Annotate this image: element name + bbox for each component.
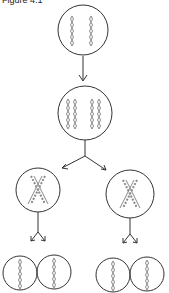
- chromosome: [74, 99, 77, 129]
- chromosome: [90, 16, 93, 46]
- chromosome: [71, 16, 74, 46]
- chromosome: [19, 259, 22, 289]
- gamete-2: [37, 255, 71, 289]
- arrow-down-icon: [79, 56, 87, 81]
- chromosome: [112, 261, 115, 291]
- meiosis-diagram: [0, 0, 169, 293]
- gamete-3: [96, 258, 130, 292]
- meiosis-1-left: [16, 168, 60, 212]
- split-arrow-icon: [123, 234, 137, 243]
- split-arrow-icon: [62, 140, 106, 170]
- chromosome: [67, 99, 70, 129]
- chromosome: [98, 99, 101, 129]
- chromosome: [53, 258, 56, 288]
- chromosome: [91, 99, 94, 129]
- parent-cell: [58, 5, 108, 55]
- split-arrow-icon: [31, 232, 45, 241]
- gamete-4: [130, 257, 164, 291]
- replicated-cell: [58, 86, 112, 140]
- chromosome: [146, 260, 149, 290]
- meiosis-1-right: [106, 170, 154, 218]
- gamete-1: [3, 256, 37, 290]
